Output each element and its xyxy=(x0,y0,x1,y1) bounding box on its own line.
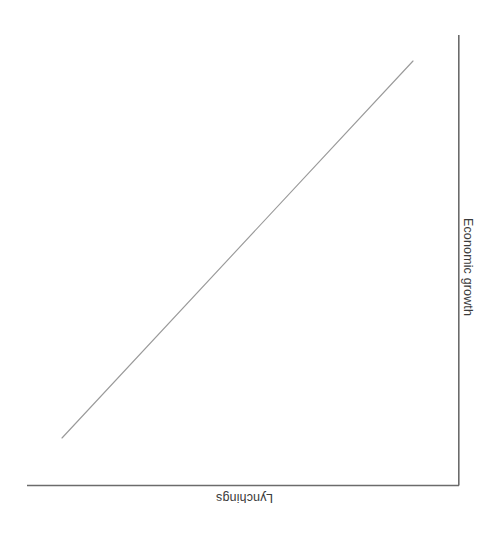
plot-area xyxy=(0,0,489,534)
data-series-line xyxy=(62,61,413,438)
chart-figure: Lynchings Economic growth xyxy=(0,0,489,534)
x-axis-title: Lynchings xyxy=(0,491,489,504)
y-axis-title: Economic growth xyxy=(462,218,475,316)
